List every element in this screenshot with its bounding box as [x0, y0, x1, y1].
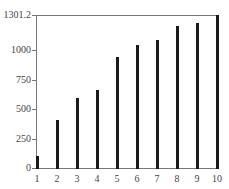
bar-7 [156, 40, 159, 169]
y-tick [32, 15, 36, 16]
x-tick-label: 4 [90, 174, 104, 184]
bar-3 [76, 98, 79, 169]
bar-4 [96, 90, 99, 169]
y-tick [32, 80, 36, 81]
x-tick-label: 10 [210, 174, 224, 184]
bar-5 [116, 57, 119, 169]
x-tick-label: 3 [70, 174, 84, 184]
y-tick [32, 109, 36, 110]
y-tick [32, 139, 36, 140]
bar-6 [136, 45, 139, 169]
bar-chart: 025050075010001301.2 12345678910 [0, 0, 229, 189]
x-tick-label: 6 [130, 174, 144, 184]
x-tick-label: 8 [170, 174, 184, 184]
x-tick-label: 7 [150, 174, 164, 184]
y-tick-label: 1301.2 [0, 10, 31, 20]
y-tick-label: 250 [0, 134, 31, 144]
y-tick-label: 750 [0, 75, 31, 85]
x-tick-label: 5 [110, 174, 124, 184]
x-tick-label: 9 [190, 174, 204, 184]
y-tick-label: 500 [0, 104, 31, 114]
bar-8 [176, 26, 179, 169]
y-tick-label: 1000 [0, 45, 31, 55]
bar-10 [216, 15, 219, 169]
bar-2 [56, 120, 59, 169]
x-tick-label: 1 [30, 174, 44, 184]
x-tick-label: 2 [50, 174, 64, 184]
y-tick [32, 168, 36, 169]
y-tick [32, 50, 36, 51]
bar-9 [196, 23, 199, 169]
plot-frame [36, 15, 218, 169]
y-tick-label: 0 [0, 163, 31, 173]
